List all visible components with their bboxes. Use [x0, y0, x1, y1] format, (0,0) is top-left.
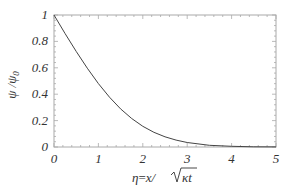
y-axis-label: ψ /ψ0	[4, 71, 21, 99]
svg-text:κt: κt	[182, 170, 192, 185]
svg-text:1: 1	[42, 7, 49, 22]
x-tick-labels: 012345	[51, 151, 280, 166]
svg-text:0.6: 0.6	[32, 60, 49, 75]
ticks	[54, 15, 276, 147]
x-axis-label: η=x/ κt	[132, 168, 197, 185]
data-line	[54, 15, 276, 147]
svg-text:0.2: 0.2	[32, 113, 49, 128]
y-tick-labels: 00.20.40.60.81	[32, 7, 49, 154]
svg-text:0.4: 0.4	[32, 86, 49, 101]
svg-text:ψ /ψ0: ψ /ψ0	[4, 71, 21, 99]
svg-text:5: 5	[273, 151, 280, 166]
svg-text:4: 4	[228, 151, 235, 166]
svg-text:1: 1	[95, 151, 102, 166]
svg-text:η=x/: η=x/	[132, 170, 157, 185]
svg-text:0: 0	[42, 139, 49, 154]
svg-text:0.8: 0.8	[32, 33, 49, 48]
svg-text:2: 2	[140, 151, 147, 166]
svg-text:3: 3	[183, 151, 191, 166]
chart: 00.20.40.60.81 012345 ψ /ψ0 η=x/ κt	[0, 0, 291, 194]
plot-frame	[54, 15, 276, 147]
svg-text:0: 0	[51, 151, 58, 166]
